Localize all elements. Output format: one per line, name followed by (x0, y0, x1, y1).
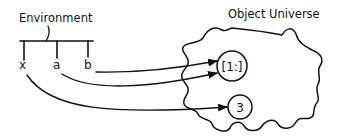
object-universe-title: Object Universe (228, 7, 320, 21)
object-universe-blob (182, 28, 322, 131)
arrow-a-to-slice (62, 73, 217, 86)
arrow-x-to-three (27, 75, 227, 110)
environment-connector (46, 26, 49, 41)
variable-x: x (19, 58, 26, 72)
object-three-label: 3 (236, 101, 244, 115)
variable-a: a (53, 58, 60, 72)
environment-object-diagram: Environment x a b Object Universe [1:] 3 (0, 0, 340, 139)
variable-b: b (84, 58, 92, 72)
object-slice-label: [1:] (221, 60, 242, 74)
object-three: 3 (228, 95, 252, 119)
arrow-b-to-slice (96, 61, 217, 72)
environment-title: Environment (19, 11, 93, 25)
object-slice: [1:] (217, 51, 247, 81)
